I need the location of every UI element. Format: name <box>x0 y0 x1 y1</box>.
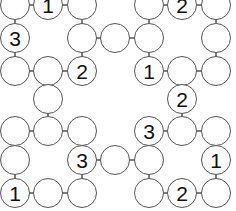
empty-circle[interactable] <box>167 116 197 146</box>
empty-circle[interactable] <box>33 178 63 208</box>
numbered-circle[interactable]: 2 <box>167 178 197 208</box>
numbered-circle[interactable]: 3 <box>134 116 164 146</box>
numbered-circle[interactable]: 3 <box>0 23 30 53</box>
empty-circle[interactable] <box>201 178 231 208</box>
empty-circle[interactable] <box>0 145 30 175</box>
empty-circle[interactable] <box>67 23 97 53</box>
empty-circle[interactable] <box>67 116 97 146</box>
empty-circle[interactable] <box>0 56 30 86</box>
empty-circle[interactable] <box>33 116 63 146</box>
empty-circle[interactable] <box>100 145 130 175</box>
numbered-circle[interactable]: 1 <box>0 178 30 208</box>
puzzle-board: 12321233112 <box>0 0 236 211</box>
numbered-circle[interactable]: 2 <box>167 84 197 114</box>
empty-circle[interactable] <box>33 84 63 114</box>
empty-circle[interactable] <box>134 23 164 53</box>
numbered-circle[interactable]: 1 <box>134 56 164 86</box>
empty-circle[interactable] <box>0 116 30 146</box>
empty-circle[interactable] <box>134 178 164 208</box>
empty-circle[interactable] <box>201 116 231 146</box>
empty-circle[interactable] <box>201 56 231 86</box>
empty-circle[interactable] <box>201 23 231 53</box>
numbered-circle[interactable]: 2 <box>67 56 97 86</box>
empty-circle[interactable] <box>134 145 164 175</box>
numbered-circle[interactable]: 3 <box>67 145 97 175</box>
empty-circle[interactable] <box>33 56 63 86</box>
empty-circle[interactable] <box>100 23 130 53</box>
numbered-circle[interactable]: 1 <box>201 145 231 175</box>
empty-circle[interactable] <box>167 56 197 86</box>
empty-circle[interactable] <box>67 178 97 208</box>
